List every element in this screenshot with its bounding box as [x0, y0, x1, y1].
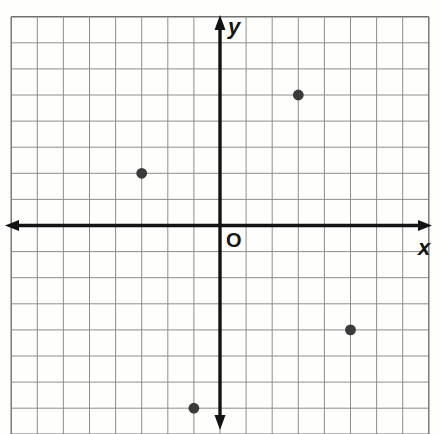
- data-point: [293, 90, 304, 101]
- x-axis-label: x: [417, 235, 431, 260]
- data-point: [189, 403, 200, 414]
- x-axis-right-arrow-icon: [418, 220, 432, 231]
- data-point: [136, 168, 147, 179]
- coordinate-plane-figure: y x O: [0, 0, 439, 434]
- y-axis-down-arrow-icon: [215, 415, 226, 430]
- origin-label: O: [226, 229, 242, 251]
- axes: [5, 15, 432, 430]
- y-axis-label: y: [227, 14, 242, 39]
- coordinate-grid-svg: y x O: [0, 0, 439, 434]
- x-axis-left-arrow-icon: [5, 220, 19, 231]
- data-point: [345, 325, 356, 336]
